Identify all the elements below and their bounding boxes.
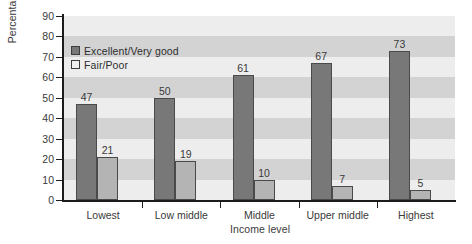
bar [254, 180, 275, 200]
y-axis-tick-label: 90 [4, 11, 54, 21]
x-axis-tick [377, 202, 378, 208]
x-axis-category-label: Low middle [142, 209, 220, 221]
y-axis-tick-label: 20 [4, 154, 54, 164]
bar-value-label: 10 [248, 167, 281, 179]
y-axis-tick-label: 40 [4, 113, 54, 123]
y-axis-tick-label: 60 [4, 72, 54, 82]
y-axis-tick [56, 98, 62, 99]
y-axis-tick [56, 159, 62, 160]
bar-chart: 0102030405060708090 472150196110677735 L… [0, 0, 472, 244]
legend: Excellent/Very good Fair/Poor [71, 44, 179, 72]
bar-value-label: 7 [326, 173, 359, 185]
legend-item: Fair/Poor [71, 58, 179, 71]
y-axis-tick [56, 16, 62, 17]
y-axis-tick [56, 118, 62, 119]
bar-value-label: 50 [148, 85, 181, 97]
legend-item-label: Excellent/Very good [84, 45, 179, 57]
bar [410, 190, 431, 200]
bar [175, 161, 196, 200]
y-axis-tick-label: 50 [4, 93, 54, 103]
y-axis-tick [56, 77, 62, 78]
y-axis-tick [56, 200, 62, 201]
y-axis-tick [56, 180, 62, 181]
y-axis-tick-label: 10 [4, 175, 54, 185]
y-axis-tick [56, 139, 62, 140]
x-axis-title: Income level [64, 223, 456, 235]
y-axis-line [62, 14, 64, 202]
x-axis-tick [220, 202, 221, 208]
bar [97, 157, 118, 200]
bar-value-label: 61 [227, 62, 260, 74]
y-axis-tick-label: 0 [4, 195, 54, 205]
bar [332, 186, 353, 200]
x-axis-line [62, 200, 456, 202]
bar-value-label: 5 [404, 177, 437, 189]
legend-item: Excellent/Very good [71, 44, 179, 57]
x-axis-category-label: Upper middle [299, 209, 377, 221]
y-axis-tick [56, 57, 62, 58]
bar-value-label: 21 [91, 144, 124, 156]
x-axis-category-label: Middle [220, 209, 298, 221]
legend-item-label: Fair/Poor [84, 59, 128, 71]
bar-value-label: 73 [383, 38, 416, 50]
y-axis-tick-label: 70 [4, 52, 54, 62]
legend-swatch-icon [71, 46, 80, 55]
y-axis-tick-label: 80 [4, 31, 54, 41]
bar [233, 75, 254, 200]
legend-swatch-icon [71, 60, 80, 69]
bar-value-label: 47 [70, 91, 103, 103]
x-axis-category-label: Lowest [64, 209, 142, 221]
bar-value-label: 67 [305, 50, 338, 62]
x-axis-category-label: Highest [377, 209, 455, 221]
y-axis-tick-label: 30 [4, 134, 54, 144]
plot-background-band [64, 16, 455, 36]
x-axis-tick [142, 202, 143, 208]
bar-value-label: 19 [169, 148, 202, 160]
x-axis-tick [299, 202, 300, 208]
y-axis-tick [56, 36, 62, 37]
